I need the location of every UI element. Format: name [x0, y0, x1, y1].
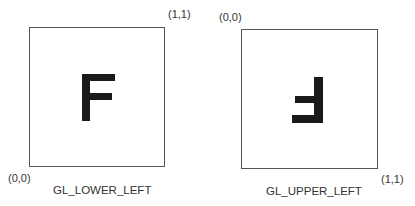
caption-gl-upper-left: GL_UPPER_LEFT: [266, 185, 362, 197]
caption-gl-lower-left: GL_LOWER_LEFT: [53, 184, 151, 196]
origin-label-top-left: (0,0): [219, 11, 242, 23]
corner-label-top-right: (1,1): [168, 8, 191, 20]
texture-frame: [241, 29, 378, 169]
origin-label-bottom-left: (0,0): [8, 172, 31, 184]
corner-label-bottom-right: (1,1): [381, 173, 404, 185]
texture-frame: [29, 27, 165, 167]
